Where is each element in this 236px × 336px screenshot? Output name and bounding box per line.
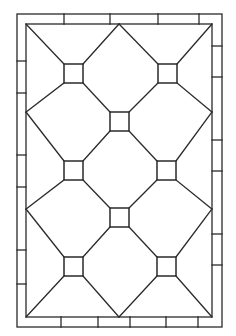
lead-line <box>176 112 212 161</box>
square-center-bottom <box>110 208 129 227</box>
lead-line <box>176 276 212 317</box>
lead-line <box>119 24 158 64</box>
lead-line <box>83 24 119 64</box>
stained-glass-diagram <box>0 0 236 336</box>
square-center-top <box>110 112 129 131</box>
lead-line <box>176 209 212 257</box>
lead-line <box>177 24 212 64</box>
square-top-right <box>158 64 177 83</box>
lead-line <box>129 180 157 208</box>
square-bottom-left <box>64 257 83 276</box>
inner-frame <box>26 24 212 317</box>
lead-line <box>176 180 212 209</box>
lead-line <box>129 227 157 257</box>
lead-lines <box>26 24 212 317</box>
lead-line <box>26 24 64 64</box>
lead-line <box>26 180 64 209</box>
lead-line <box>26 112 64 161</box>
window-frame <box>17 14 222 327</box>
border-segments <box>17 14 222 327</box>
square-top-left <box>64 64 83 83</box>
lead-line <box>26 276 64 317</box>
window-pattern-drawing <box>0 0 236 336</box>
lead-line <box>83 276 119 317</box>
lead-line <box>83 180 110 208</box>
glass-squares <box>64 64 177 276</box>
lead-line <box>83 131 110 161</box>
square-middle-left <box>64 161 83 180</box>
outer-frame <box>17 14 222 327</box>
lead-line <box>119 276 157 317</box>
lead-line <box>129 83 158 112</box>
square-bottom-right <box>157 257 176 276</box>
lead-line <box>83 227 110 257</box>
square-middle-right <box>157 161 176 180</box>
lead-line <box>26 209 64 257</box>
lead-line <box>129 131 157 161</box>
lead-line <box>177 83 212 112</box>
lead-line <box>26 83 64 112</box>
lead-line <box>83 83 110 112</box>
